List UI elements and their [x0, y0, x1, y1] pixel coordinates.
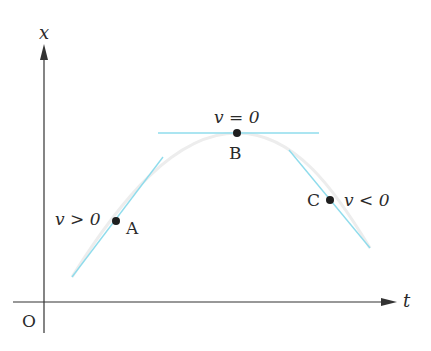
- point-b-dot: [233, 129, 241, 137]
- velocity-label-b: v = 0: [214, 109, 259, 126]
- point-c-label: C: [307, 192, 320, 209]
- t-axis-arrow-icon: [381, 298, 397, 306]
- position-time-diagram: [0, 0, 431, 351]
- horizontal-axis-label: t: [403, 292, 410, 310]
- point-b-label: B: [229, 145, 242, 162]
- vertical-axis-label: x: [39, 24, 49, 42]
- point-a-label: A: [126, 220, 138, 237]
- point-c-dot: [326, 196, 334, 204]
- origin-label: O: [22, 313, 36, 330]
- velocity-label-c: v < 0: [344, 192, 389, 209]
- point-a-dot: [112, 217, 120, 225]
- velocity-label-a: v > 0: [55, 211, 100, 228]
- position-curve: [72, 133, 370, 277]
- x-axis-arrow-icon: [40, 44, 48, 60]
